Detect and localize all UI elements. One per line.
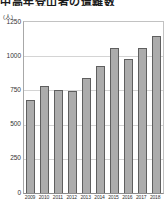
- x-tick-2014: 2014: [93, 194, 107, 200]
- bar-2018: [152, 36, 161, 193]
- bar-2017: [138, 48, 147, 193]
- chart-card: 中高年登山者の遭難数 (人) 025050075010001250 200920…: [0, 0, 166, 211]
- x-tick-2015: 2015: [106, 194, 120, 200]
- y-tick-1000: 1000: [0, 52, 21, 59]
- bar-2013: [82, 78, 91, 193]
- x-tick-2018: 2018: [148, 194, 162, 200]
- bar-2014: [96, 66, 105, 193]
- chart-title: 中高年登山者の遭難数: [0, 0, 166, 6]
- chart-title-clip: 中高年登山者の遭難数: [0, 0, 166, 6]
- y-tick-500: 500: [0, 120, 21, 127]
- x-tick-2011: 2011: [51, 194, 65, 200]
- y-tick-1250: 1250: [0, 18, 21, 25]
- bar-2015: [110, 48, 119, 193]
- y-tick-250: 250: [0, 154, 21, 161]
- x-tick-2012: 2012: [65, 194, 79, 200]
- x-tick-2009: 2009: [23, 194, 37, 200]
- y-tick-750: 750: [0, 86, 21, 93]
- y-tick-0: 0: [0, 189, 21, 196]
- x-tick-2013: 2013: [79, 194, 93, 200]
- bar-2010: [40, 86, 49, 193]
- x-tick-2016: 2016: [120, 194, 134, 200]
- bar-2012: [68, 91, 77, 193]
- x-tick-2017: 2017: [134, 194, 148, 200]
- x-tick-2010: 2010: [37, 194, 51, 200]
- plot-area: [23, 21, 164, 194]
- bar-2009: [26, 100, 35, 193]
- bar-2016: [124, 59, 133, 193]
- bar-2011: [54, 90, 63, 193]
